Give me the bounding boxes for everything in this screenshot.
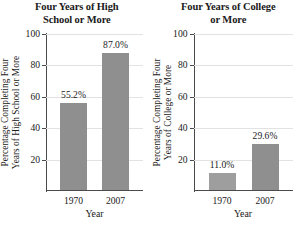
y-axis-label-line-1: Percentage Completing Four	[0, 34, 11, 191]
gridline-100	[46, 34, 143, 35]
y-axis-label-line-2: Years of High School or More	[11, 34, 22, 191]
y-axis-spine	[46, 33, 47, 192]
x-tick-label-2007: 2007	[255, 196, 274, 206]
y-tick-100	[42, 34, 46, 35]
chart-title-high-school: Four Years of High School or More	[6, 1, 148, 26]
x-axis-spine	[46, 190, 143, 191]
y-tick-20	[42, 160, 46, 161]
y-tick-label-20: 20	[178, 155, 188, 165]
plot-area-high-school: 100 80 60 40 20 55.2% 1970 87.0% 2007	[46, 34, 143, 191]
gridline-100	[194, 34, 293, 35]
bar-value-2007: 29.6%	[253, 131, 278, 141]
y-axis-label-line-2: Years of College or More	[163, 34, 174, 191]
x-axis-label-college: Year	[194, 209, 293, 219]
y-axis-label-line-1: Percentage Completing Four	[152, 34, 163, 191]
chart-title-line-2: or More	[158, 14, 300, 27]
y-axis-label-high-school: Percentage Completing Four Years of High…	[0, 34, 28, 191]
chart-panel-high-school: Four Years of High School or More Percen…	[0, 0, 152, 235]
x-axis-spine	[194, 190, 293, 191]
x-tick-label-2007: 2007	[106, 196, 125, 206]
plot-area-college: 100 80 60 40 20 11.0% 1970 29.6% 2007	[194, 34, 293, 191]
y-tick-label-60: 60	[30, 92, 40, 102]
y-axis-spine	[194, 33, 195, 192]
y-tick-label-40: 40	[30, 123, 40, 133]
y-tick-label-60: 60	[178, 92, 188, 102]
gridline-40	[194, 128, 293, 129]
chart-title-college: Four Years of College or More	[158, 1, 300, 26]
y-tick-20	[190, 160, 194, 161]
y-tick-80	[190, 65, 194, 66]
x-axis-label-high-school: Year	[46, 209, 143, 219]
two-bar-charts-figure: Four Years of High School or More Percen…	[0, 0, 303, 235]
bar-1970	[60, 103, 87, 190]
y-tick-label-80: 80	[178, 61, 188, 71]
y-tick-80	[42, 65, 46, 66]
chart-title-line-2: School or More	[6, 14, 148, 27]
y-tick-40	[190, 128, 194, 129]
x-tick-label-1970: 1970	[212, 196, 231, 206]
y-tick-label-100: 100	[26, 29, 40, 39]
gridline-60	[194, 97, 293, 98]
y-axis-label-college: Percentage Completing Four Years of Coll…	[152, 34, 180, 191]
y-tick-label-80: 80	[30, 61, 40, 71]
bar-1970	[209, 173, 236, 190]
y-tick-label-100: 100	[173, 29, 187, 39]
chart-title-line-1: Four Years of College	[158, 1, 300, 14]
bar-2007	[102, 53, 129, 190]
bar-2007	[252, 144, 279, 191]
chart-panel-college: Four Years of College or More Percentage…	[152, 0, 304, 235]
y-tick-100	[190, 34, 194, 35]
y-tick-label-40: 40	[178, 123, 188, 133]
y-tick-60	[42, 97, 46, 98]
x-tick-label-1970: 1970	[64, 196, 83, 206]
bar-value-1970: 11.0%	[210, 160, 234, 170]
bar-value-1970: 55.2%	[61, 90, 86, 100]
chart-title-line-1: Four Years of High	[6, 1, 148, 14]
gridline-80	[194, 65, 293, 66]
y-tick-40	[42, 128, 46, 129]
bar-value-2007: 87.0%	[103, 40, 128, 50]
y-tick-label-20: 20	[30, 155, 40, 165]
y-tick-60	[190, 97, 194, 98]
